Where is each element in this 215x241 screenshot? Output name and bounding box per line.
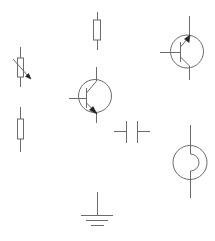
resistor-top-symbol[interactable] [94, 12, 101, 50]
capacitor-symbol[interactable] [114, 121, 150, 143]
ground-symbol[interactable] [81, 192, 113, 226]
npn-transistor-symbol[interactable] [69, 67, 112, 123]
circuit-canvas [0, 0, 215, 241]
pnp-transistor-symbol[interactable] [160, 16, 204, 80]
resistor-left-symbol[interactable] [18, 107, 24, 152]
variable-resistor-symbol[interactable] [13, 47, 31, 87]
circle-source-symbol[interactable] [173, 125, 207, 198]
